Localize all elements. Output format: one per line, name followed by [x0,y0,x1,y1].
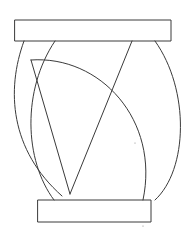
bottom-rectangle [38,200,151,222]
big-crossing-arc [31,60,146,200]
v-right-line [70,41,132,194]
v-left-line [31,60,70,194]
left-outer-arc [14,41,62,196]
sketch-svg [0,0,195,236]
stray-dot [134,142,135,143]
sketch-canvas [0,0,195,236]
top-rectangle [15,20,171,41]
stray-dot [142,225,143,226]
stray-dots [134,142,143,226]
right-outer-arc [155,41,181,200]
